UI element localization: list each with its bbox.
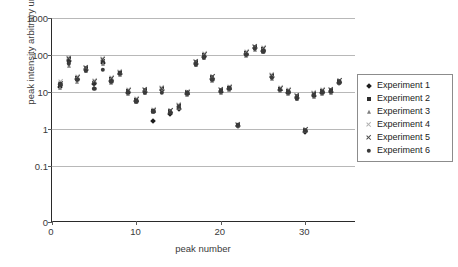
data-point xyxy=(134,99,138,103)
legend-label: Experiment 1 xyxy=(377,80,430,91)
data-point xyxy=(66,58,72,64)
legend-item-3[interactable]: Experiment 3 xyxy=(363,105,448,118)
data-point xyxy=(58,79,63,84)
data-point xyxy=(244,50,249,55)
data-point xyxy=(92,78,97,83)
data-point xyxy=(194,63,198,67)
data-point xyxy=(210,76,216,82)
data-point xyxy=(218,87,223,92)
data-point xyxy=(117,71,123,77)
data-point xyxy=(101,59,105,63)
data-point xyxy=(244,49,249,54)
data-point xyxy=(58,82,62,86)
x-tick-mark xyxy=(136,221,137,225)
data-point xyxy=(58,86,62,90)
x-tick-label: 10 xyxy=(130,226,141,237)
data-point xyxy=(337,78,342,83)
data-point xyxy=(134,98,138,102)
x-axis-tick-labels: 0102030 xyxy=(51,226,355,240)
y-tick-label: 100 xyxy=(32,50,48,61)
data-point xyxy=(58,84,64,90)
data-point xyxy=(294,93,299,98)
y-tick-mark xyxy=(48,18,52,19)
data-point xyxy=(236,123,240,127)
data-point xyxy=(193,61,199,67)
data-point xyxy=(253,45,257,49)
data-point xyxy=(337,80,341,84)
legend-item-1[interactable]: Experiment 1 xyxy=(363,79,448,92)
data-point xyxy=(109,77,113,81)
data-point xyxy=(83,65,88,70)
data-point xyxy=(151,110,155,114)
data-point xyxy=(168,108,173,113)
data-point xyxy=(83,65,88,70)
data-point xyxy=(117,70,122,75)
x-tick-label: 20 xyxy=(215,226,226,237)
data-point xyxy=(295,94,299,98)
data-point xyxy=(118,73,122,77)
data-point xyxy=(83,67,89,73)
data-point xyxy=(134,96,139,101)
data-point xyxy=(236,124,240,128)
legend-item-6[interactable]: Experiment 6 xyxy=(363,144,448,157)
legend-label: Experiment 6 xyxy=(377,145,430,156)
y-tick-mark xyxy=(48,92,52,93)
data-point xyxy=(67,63,71,67)
gridline xyxy=(52,166,355,167)
x-tick-label: 0 xyxy=(48,226,53,237)
data-point xyxy=(278,86,283,91)
data-point xyxy=(193,62,197,66)
data-point xyxy=(84,68,88,72)
data-point xyxy=(176,103,181,108)
data-point xyxy=(312,95,316,99)
data-point xyxy=(75,74,80,79)
data-point xyxy=(210,74,215,79)
data-point xyxy=(177,104,181,108)
data-point xyxy=(100,60,106,66)
legend-label: Experiment 4 xyxy=(377,119,430,130)
data-point xyxy=(337,78,342,83)
data-point xyxy=(236,123,240,127)
data-point xyxy=(168,111,172,115)
y-tick-mark xyxy=(48,129,52,130)
data-point xyxy=(109,79,113,83)
data-point xyxy=(66,56,71,61)
data-point xyxy=(193,59,198,64)
data-point xyxy=(108,78,114,84)
data-point xyxy=(75,75,80,80)
data-point xyxy=(302,129,308,135)
data-point xyxy=(294,93,299,98)
data-point xyxy=(227,86,231,90)
data-point xyxy=(91,82,97,88)
legend-item-2[interactable]: Experiment 2 xyxy=(363,92,448,105)
data-point xyxy=(134,97,139,102)
data-point xyxy=(185,93,189,97)
data-point xyxy=(176,106,182,112)
y-tick-label: 0.1 xyxy=(35,161,48,172)
x-tick-label: 30 xyxy=(299,226,310,237)
data-point xyxy=(92,84,96,88)
data-point xyxy=(278,85,283,90)
legend-label: Experiment 3 xyxy=(377,106,430,117)
data-point xyxy=(261,50,265,54)
chart-figure: peak intensity arbitrary units 100010010… xyxy=(0,0,458,267)
data-point xyxy=(269,74,275,80)
y-tick-label: 10 xyxy=(37,87,48,98)
data-point xyxy=(109,76,114,81)
data-point xyxy=(67,57,71,61)
data-point xyxy=(252,44,257,49)
data-point xyxy=(151,107,156,112)
data-point xyxy=(117,71,121,75)
y-tick-mark xyxy=(48,55,52,56)
plot-area xyxy=(51,18,355,222)
data-point xyxy=(177,105,181,109)
data-point xyxy=(92,79,97,84)
legend-label: Experiment 2 xyxy=(377,93,430,104)
data-point xyxy=(270,74,274,78)
x-tick-mark xyxy=(221,221,222,225)
data-point xyxy=(75,78,79,82)
legend-item-5[interactable]: Experiment 5 xyxy=(363,131,448,144)
gridline xyxy=(52,129,355,130)
legend-item-4[interactable]: Experiment 4 xyxy=(363,118,448,131)
x-tick-mark xyxy=(52,221,53,225)
